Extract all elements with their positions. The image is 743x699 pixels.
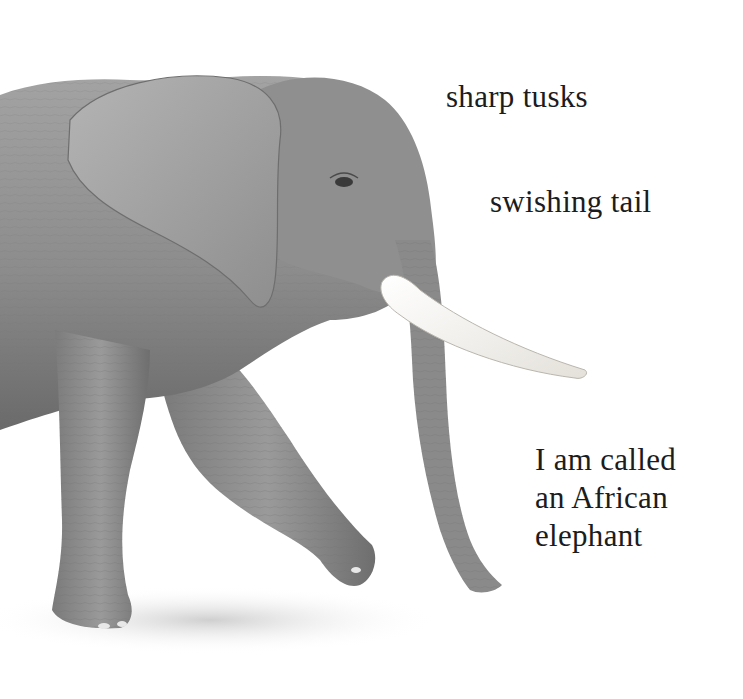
caption-line: elephant — [535, 517, 715, 555]
elephant-eye — [335, 177, 353, 187]
caption-line: an African — [535, 479, 715, 517]
caption-african-elephant: I am called an African elephant — [535, 441, 715, 555]
caption-swishing-tail: swishing tail — [490, 183, 652, 221]
book-page: sharp tusks swishing tail I am called an… — [0, 0, 743, 699]
caption-sharp-tusks: sharp tusks — [446, 78, 588, 116]
elephant-illustration — [0, 0, 743, 699]
caption-line: I am called — [535, 441, 715, 479]
